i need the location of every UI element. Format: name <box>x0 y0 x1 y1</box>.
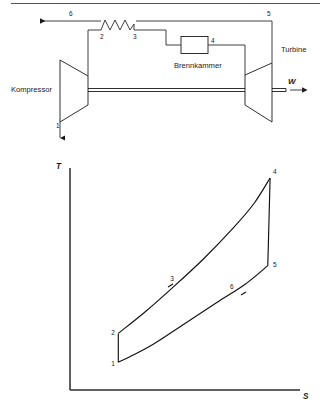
schematic-point-6: 6 <box>69 10 73 17</box>
turbine-body <box>245 63 272 122</box>
schematic-point-5: 5 <box>267 10 271 17</box>
work-output-label: W <box>288 77 297 86</box>
chart-point-1: 1 <box>111 360 115 367</box>
recuperator-zigzag <box>101 20 134 30</box>
tick-point-6 <box>241 292 246 295</box>
ts-diagram: T S 1 2 3 4 <box>56 162 309 401</box>
turbine-label: Turbine <box>281 45 306 54</box>
y-axis-label: T <box>56 162 62 171</box>
schematic-point-3: 3 <box>133 33 137 40</box>
kompressor-label: Kompressor <box>11 85 52 94</box>
segment-2-3-4 <box>118 178 270 333</box>
brennkammer-label: Brennkammer <box>174 61 222 70</box>
cycle-curves <box>118 178 270 362</box>
kompressor-body <box>60 60 88 122</box>
technical-figure: Kompressor Brennkammer Turbine W 1 2 3 4… <box>0 0 325 411</box>
x-axis-label: S <box>303 392 309 401</box>
segment-4-5 <box>268 178 270 266</box>
segment-5-6-1 <box>118 266 267 363</box>
chart-point-2: 2 <box>111 329 115 336</box>
cycle-point-ticks <box>168 284 246 295</box>
pipe-brennkammer-to-turbine <box>208 45 245 75</box>
schematic-diagram: Kompressor Brennkammer Turbine W 1 2 3 4… <box>11 10 306 138</box>
chart-point-6: 6 <box>230 283 234 290</box>
pipe-turbine-exhaust-to-recuperator <box>136 21 272 63</box>
chart-point-4: 4 <box>273 168 277 175</box>
tick-point-3 <box>168 284 173 287</box>
schematic-point-2: 2 <box>100 33 104 40</box>
figure-root: Kompressor Brennkammer Turbine W 1 2 3 4… <box>0 0 325 411</box>
schematic-point-1: 1 <box>56 122 60 129</box>
brennkammer-box <box>181 37 208 54</box>
chart-point-3: 3 <box>170 275 174 282</box>
chart-point-5: 5 <box>273 261 277 268</box>
pipe-recuperator-to-brennkammer <box>134 24 181 45</box>
schematic-point-4: 4 <box>211 37 215 44</box>
